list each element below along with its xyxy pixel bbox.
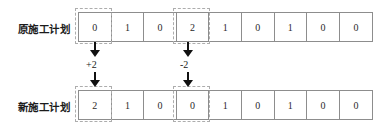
delta-label-right: -2 [180,59,188,70]
delta-label-left: +2 [86,59,97,70]
arrow-head [90,50,100,57]
down-arrow-icon [89,72,100,87]
arrow-head [183,50,193,57]
row-label-original: 原施工计划 [18,21,76,36]
schedule-cell: 0 [307,13,340,41]
arrow-head [90,80,100,87]
down-arrow-icon [182,72,193,87]
down-arrow-icon [182,42,193,57]
schedule-cell: 0 [144,13,177,41]
schedule-cell: 1 [209,13,242,41]
schedule-cell: 2 [79,91,112,119]
schedule-cell: 0 [340,91,373,119]
arrow-head [183,80,193,87]
row-label-new: 新施工计划 [18,99,76,114]
schedule-cell: 0 [242,91,275,119]
schedule-row-original: 0 1 0 2 1 0 1 0 0 [78,12,373,42]
schedule-cell: 1 [209,91,242,119]
schedule-cell: 1 [275,13,308,41]
schedule-shift-diagram: 原施工计划 0 1 0 2 1 0 1 0 0 新施工计划 2 1 0 0 1 … [0,0,385,129]
schedule-cell: 0 [340,13,373,41]
schedule-cell: 1 [275,91,308,119]
schedule-cell: 0 [79,13,112,41]
schedule-row-new: 2 1 0 0 1 0 1 0 0 [78,90,373,120]
down-arrow-icon [89,42,100,57]
schedule-cell: 0 [144,91,177,119]
schedule-cell: 2 [177,13,210,41]
schedule-cell: 1 [112,13,145,41]
schedule-cell: 0 [242,13,275,41]
schedule-cell: 0 [177,91,210,119]
schedule-cell: 0 [307,91,340,119]
schedule-cell: 1 [112,91,145,119]
